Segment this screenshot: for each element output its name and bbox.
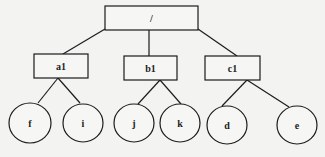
leaf-i: i <box>63 104 103 142</box>
leaf-label: i <box>82 118 85 129</box>
tree-nodes: /a1b1c1fijkde <box>9 6 317 144</box>
node-c1: c1 <box>205 56 260 80</box>
edge-b1-j <box>138 80 160 104</box>
leaf-j: j <box>114 104 154 142</box>
leaf-k: k <box>160 104 200 142</box>
edge-a1-i <box>58 78 80 103</box>
edge-c1-d <box>222 80 247 106</box>
leaf-f: f <box>9 103 51 143</box>
edge-root-a1 <box>63 29 105 54</box>
tree-diagram: /a1b1c1fijkde <box>0 0 325 157</box>
leaf-label: d <box>224 120 230 131</box>
leaf-e: e <box>277 106 317 144</box>
edge-c1-e <box>247 80 289 107</box>
node-b1: b1 <box>124 56 177 80</box>
node-label: a1 <box>56 61 66 72</box>
edge-root-c1 <box>198 29 237 56</box>
leaf-label: k <box>177 118 183 129</box>
node-label: b1 <box>145 63 156 74</box>
edge-b1-k <box>160 80 181 104</box>
leaf-label: e <box>295 120 300 131</box>
edge-a1-f <box>38 78 58 103</box>
node-root: / <box>105 6 198 30</box>
leaf-label: j <box>131 118 135 129</box>
node-label: c1 <box>228 63 237 74</box>
node-label: / <box>149 13 153 24</box>
leaf-d: d <box>207 106 247 144</box>
node-a1: a1 <box>34 54 88 78</box>
